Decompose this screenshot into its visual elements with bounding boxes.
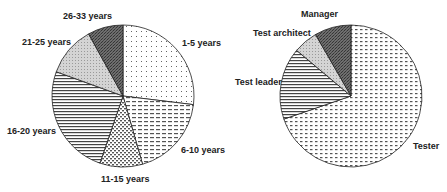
label-21-25-years: 21-25 years <box>22 37 71 47</box>
label-tester: Tester <box>413 141 440 151</box>
label-16-20-years: 16-20 years <box>7 126 56 136</box>
pie-role <box>280 25 422 167</box>
label-6-10-years: 6-10 years <box>181 145 225 155</box>
label-26-33-years: 26-33 years <box>63 11 112 21</box>
label-1-5-years: 1-5 years <box>182 38 221 48</box>
label-test-leader: Test leader <box>235 77 282 87</box>
label-test-architect: Test architect <box>253 28 311 38</box>
pie-experience <box>52 25 194 167</box>
figure: 1-5 years 6-10 years 11-15 years 16-20 y… <box>0 0 447 192</box>
label-manager: Manager <box>301 9 339 19</box>
label-11-15-years: 11-15 years <box>101 174 150 184</box>
slice-1-5-years <box>123 25 194 105</box>
